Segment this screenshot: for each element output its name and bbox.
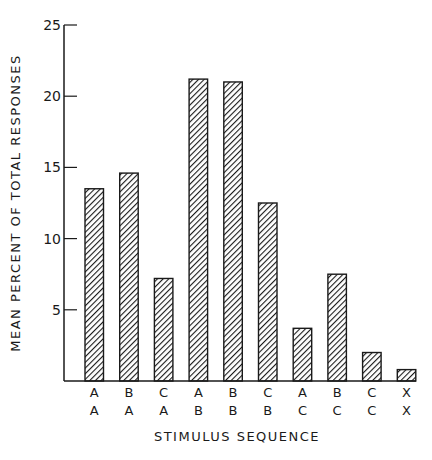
y-tick-label: 25 bbox=[43, 17, 61, 33]
x-tick-label-top: B bbox=[124, 385, 133, 400]
x-tick-label-bottom: C bbox=[333, 403, 342, 418]
x-tick-label-bottom: A bbox=[159, 403, 168, 418]
bar-b-a bbox=[120, 173, 139, 381]
y-axis: 510152025 bbox=[43, 17, 77, 381]
bar-b-c bbox=[328, 274, 347, 381]
x-tick-label-bottom: X bbox=[402, 403, 411, 418]
y-axis-title: MEAN PERCENT OF TOTAL RESPONSES bbox=[8, 54, 23, 351]
y-tick-label: 20 bbox=[43, 88, 61, 104]
x-tick-label-top: A bbox=[194, 385, 203, 400]
x-tick-label-top: C bbox=[367, 385, 376, 400]
x-tick-label-bottom: B bbox=[194, 403, 203, 418]
y-tick-label: 5 bbox=[52, 302, 61, 318]
x-tick-label-bottom: A bbox=[90, 403, 99, 418]
bar-a-c bbox=[293, 328, 312, 381]
x-tick-label-bottom: B bbox=[229, 403, 238, 418]
bar-a-b bbox=[189, 79, 208, 381]
x-tick-label-bottom: C bbox=[298, 403, 307, 418]
x-tick-label-top: A bbox=[90, 385, 99, 400]
bars bbox=[85, 79, 416, 381]
bar-a-a bbox=[85, 189, 104, 381]
y-tick-label: 15 bbox=[43, 159, 61, 175]
bar-c-a bbox=[154, 278, 173, 381]
x-tick-label-top: A bbox=[298, 385, 307, 400]
x-tick-label-top: B bbox=[229, 385, 238, 400]
x-tick-label-top: C bbox=[159, 385, 168, 400]
x-tick-label-bottom: A bbox=[124, 403, 133, 418]
x-axis-title: STIMULUS SEQUENCE bbox=[154, 429, 320, 444]
bar-c-c bbox=[363, 353, 382, 381]
bar-c-b bbox=[259, 203, 278, 381]
x-tick-label-top: X bbox=[402, 385, 411, 400]
y-tick-label: 10 bbox=[43, 231, 61, 247]
bar-x-x bbox=[397, 370, 416, 381]
x-tick-label-top: B bbox=[333, 385, 342, 400]
x-tick-label-top: C bbox=[263, 385, 272, 400]
x-tick-label-bottom: C bbox=[367, 403, 376, 418]
bar-b-b bbox=[224, 82, 243, 381]
x-axis: AABACAABBBCBACBCCCXX bbox=[64, 381, 416, 418]
bar-chart: 510152025 AABACAABBBCBACBCCCXX MEAN PERC… bbox=[0, 0, 432, 460]
x-tick-label-bottom: B bbox=[263, 403, 272, 418]
